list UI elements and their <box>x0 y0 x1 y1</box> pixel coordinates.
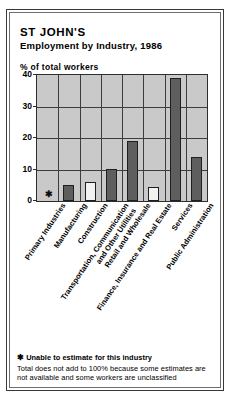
y-tick-mark-20 <box>33 137 36 138</box>
bar-4 <box>127 141 138 201</box>
footnote-line-2: not available and some workers are uncla… <box>17 373 177 382</box>
gridline-x-5 <box>143 75 144 201</box>
page-title: ST JOHN'S <box>20 26 86 38</box>
gridline-x-2 <box>80 75 81 201</box>
page-subtitle: Employment by Industry, 1986 <box>20 40 162 51</box>
bar-6 <box>170 78 181 201</box>
footnote-unavailable: ✱ Unable to estimate for this industry <box>17 353 152 362</box>
gridline-x-1 <box>58 75 59 201</box>
footnote-line-1: Total does not add to 100% because some … <box>17 364 206 373</box>
y-tick-label-40: 40 <box>23 70 32 78</box>
y-tick-mark-10 <box>33 169 36 170</box>
y-tick-mark-0 <box>33 200 36 201</box>
footnote-star-text: Unable to estimate for this industry <box>26 353 152 362</box>
gridline-x-7 <box>186 75 187 201</box>
bar-3 <box>106 169 117 201</box>
bar-7 <box>191 157 202 201</box>
y-tick-mark-30 <box>33 106 36 107</box>
y-tick-label-20: 20 <box>23 133 32 141</box>
y-tick-label-30: 30 <box>23 102 32 110</box>
y-tick-label-0: 0 <box>27 196 32 204</box>
bar-5 <box>148 187 159 201</box>
x-axis-category-labels: Primary IndustriesManufacturingConstruct… <box>36 202 222 318</box>
plot-wrapper: ✱ 010203040 <box>36 74 206 200</box>
bar-0-unavailable-marker: ✱ <box>45 190 53 198</box>
plot-area: ✱ <box>36 74 208 202</box>
bar-2 <box>85 182 96 201</box>
asterisk-icon: ✱ <box>17 353 24 362</box>
gridline-x-4 <box>122 75 123 201</box>
bar-1 <box>63 185 74 201</box>
gridline-x-6 <box>165 75 166 201</box>
y-tick-mark-40 <box>33 74 36 75</box>
chart-page: ST JOHN'S Employment by Industry, 1986 %… <box>0 0 232 400</box>
gridline-x-3 <box>101 75 102 201</box>
y-tick-label-10: 10 <box>23 165 32 173</box>
